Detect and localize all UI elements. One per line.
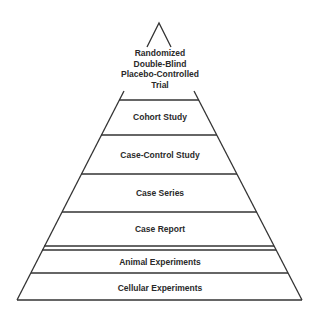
label-line: Double-Blind	[0, 59, 320, 70]
label-line: Randomized	[0, 48, 320, 59]
level-rct-label: Randomized Double-Blind Placebo-Controll…	[0, 48, 320, 90]
level-cellular-label: Cellular Experiments	[0, 283, 320, 294]
level-case-control-label: Case-Control Study	[0, 150, 320, 161]
level-animal-label: Animal Experiments	[0, 257, 320, 268]
level-case-series-label: Case Series	[0, 188, 320, 199]
label-line: Trial	[0, 80, 320, 91]
level-cohort-label: Cohort Study	[0, 112, 320, 123]
pyramid-apex	[147, 23, 171, 47]
label-line: Placebo-Controlled	[0, 69, 320, 80]
level-case-report-label: Case Report	[0, 224, 320, 235]
